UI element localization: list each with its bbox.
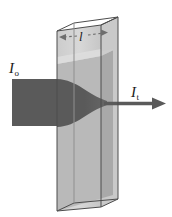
incident-intensity-symbol: I (9, 60, 14, 76)
incident-beam (12, 79, 58, 126)
beer-lambert-diagram: Io It l (0, 0, 172, 217)
cuvette-illustration (0, 0, 172, 217)
arrow-head (152, 98, 166, 110)
solution-volume (57, 48, 118, 211)
transmitted-intensity-subscript: t (137, 92, 140, 102)
solution-front (57, 56, 101, 211)
path-length-label: l (79, 28, 83, 44)
path-length-symbol: l (79, 29, 83, 44)
transmitted-intensity-symbol: I (131, 84, 136, 100)
incident-intensity-label: Io (9, 60, 19, 76)
transmitted-intensity-label: It (131, 84, 139, 100)
incident-intensity-subscript: o (15, 68, 20, 78)
